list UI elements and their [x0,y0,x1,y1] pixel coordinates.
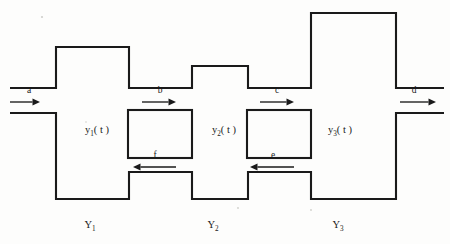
flow-c-label: c [275,85,279,95]
diagram-background [0,0,450,244]
scan-speck-1 [41,16,43,18]
diagram-canvas: abcdfe y1( t )y2( t )y3( t ) Y1Y2Y3 [0,0,450,244]
scan-speck-2 [237,207,239,209]
flow-e-label: e [271,150,275,160]
flow-d-label: d [412,85,417,95]
three-tank-system-diagram: abcdfe y1( t )y2( t )y3( t ) Y1Y2Y3 [0,0,450,244]
scan-speck-4 [85,121,87,123]
flow-b-label: b [158,85,163,95]
scan-speck-3 [310,209,312,211]
